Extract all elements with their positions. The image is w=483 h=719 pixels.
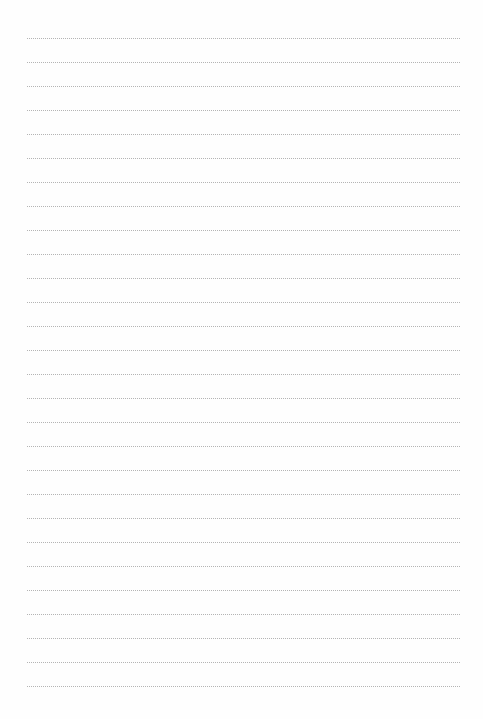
ruled-line: [27, 590, 460, 591]
ruled-line: [27, 38, 460, 39]
ruled-line: [27, 230, 460, 231]
ruled-line: [27, 686, 460, 687]
ruled-line: [27, 518, 460, 519]
ruled-line: [27, 350, 460, 351]
ruled-line: [27, 206, 460, 207]
ruled-line: [27, 470, 460, 471]
ruled-line: [27, 182, 460, 183]
ruled-line: [27, 134, 460, 135]
ruled-line: [27, 542, 460, 543]
ruled-line: [27, 158, 460, 159]
ruled-line: [27, 302, 460, 303]
ruled-line: [27, 422, 460, 423]
ruled-line: [27, 494, 460, 495]
ruled-line: [27, 110, 460, 111]
ruled-line: [27, 398, 460, 399]
ruled-line: [27, 614, 460, 615]
ruled-line: [27, 254, 460, 255]
lined-paper-page: [0, 0, 483, 719]
ruled-line: [27, 326, 460, 327]
ruled-line: [27, 446, 460, 447]
ruled-line: [27, 374, 460, 375]
ruled-line: [27, 86, 460, 87]
ruled-line: [27, 278, 460, 279]
ruled-line: [27, 62, 460, 63]
ruled-line: [27, 662, 460, 663]
ruled-line: [27, 566, 460, 567]
ruled-line: [27, 638, 460, 639]
